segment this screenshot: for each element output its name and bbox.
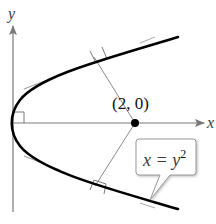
upper-normal-line: [94, 57, 135, 123]
diagram-canvas: y x (2, 0) x = y2: [0, 0, 216, 224]
equation-label: x = y2: [142, 147, 186, 170]
upper-tangent-line-end: [140, 37, 155, 43]
equation-main: x = y: [142, 150, 180, 170]
equation-exponent: 2: [180, 147, 186, 161]
x-axis-label: x: [206, 114, 214, 131]
point-label: (2, 0): [112, 94, 149, 113]
lower-normal-line: [95, 123, 135, 186]
vertex-right-angle-marker: [13, 112, 24, 123]
y-axis-label: y: [6, 5, 16, 23]
focus-point: [131, 119, 139, 127]
lower-tangent-line-end: [140, 203, 155, 208]
